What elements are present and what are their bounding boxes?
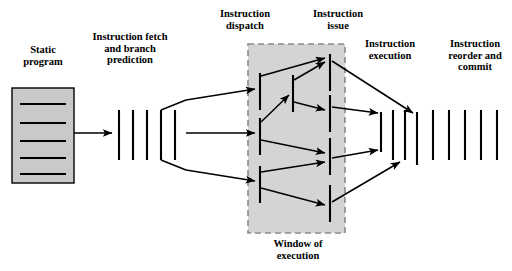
dispatch-fanout-connectors [161, 100, 186, 170]
diagram-root: Static program Instruction fetch and bra… [0, 0, 512, 271]
label-instruction-fetch: Instruction fetch and branch prediction [82, 31, 178, 66]
pipeline-diagram [0, 0, 512, 271]
execution-bars [381, 110, 417, 165]
fetch-instruction-bars [119, 110, 175, 160]
reorder-commit-bars [433, 110, 497, 160]
label-instruction-dispatch: Instruction dispatch [204, 8, 286, 31]
label-instruction-reorder-commit: Instruction reorder and commit [440, 38, 510, 73]
label-instruction-issue: Instruction issue [298, 8, 378, 31]
dispatch-arrows [186, 89, 255, 181]
label-window-of-execution: Window of execution [250, 238, 346, 261]
static-program-box [12, 88, 74, 183]
label-static-program: Static program [6, 44, 80, 67]
label-instruction-execution: Instruction execution [352, 38, 428, 61]
